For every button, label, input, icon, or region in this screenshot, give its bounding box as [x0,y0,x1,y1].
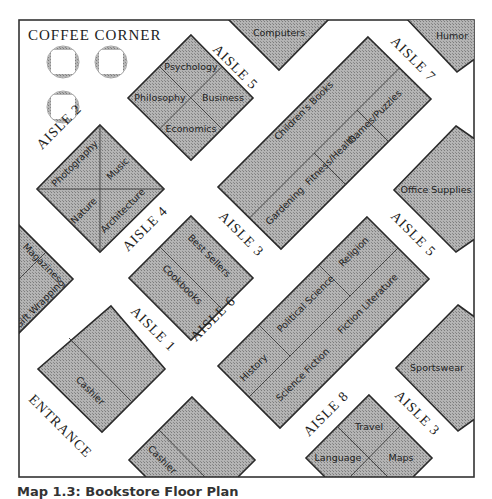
section-label-business: Business [202,92,244,103]
section-label-economics: Economics [166,123,217,134]
section-label-philosophy: Philosophy [134,92,186,103]
section-label-sportswear: Sportswear [410,362,464,373]
section-label-humor: Humor [436,30,468,41]
section-label-psychology: Psychology [164,61,218,72]
section-label-language: Language [315,452,362,463]
section-label-travel: Travel [354,421,383,432]
section-label-office-supplies: Office Supplies [401,184,472,195]
section-label-computers: Computers [253,27,305,38]
map-caption: Map 1.3: Bookstore Floor Plan [17,484,239,499]
coffee-table-2 [95,46,127,78]
coffee-corner-label: COFFEE CORNER [28,27,161,43]
coffee-table-1 [47,46,79,78]
section-label-maps: Maps [389,452,414,463]
